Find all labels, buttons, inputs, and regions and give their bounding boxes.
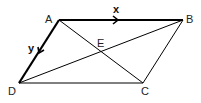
point-label-e: E (97, 37, 104, 49)
point-label-b: B (186, 13, 193, 25)
vector-label-x: x (113, 3, 120, 15)
point-label-a: A (45, 13, 53, 25)
parallelogram-diagram: A B C D E x y (0, 0, 201, 103)
side-bc (143, 20, 183, 83)
point-label-c: C (141, 85, 149, 97)
diagonal-bd (19, 20, 183, 83)
vector-label-y: y (28, 42, 35, 54)
point-label-d: D (8, 85, 16, 97)
